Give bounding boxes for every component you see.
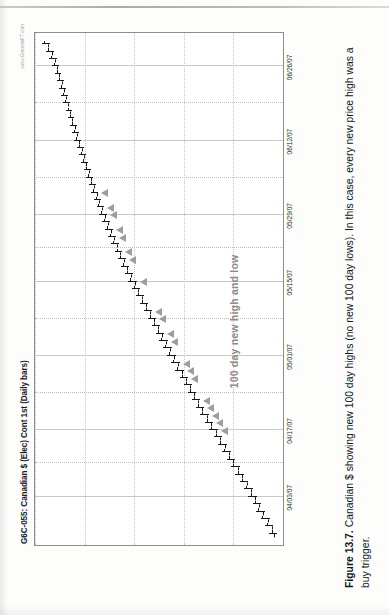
- page-edge-shadow-bottom: [0, 605, 389, 615]
- chart-title: G6C-055: Canadian $ (Elec) Cont 1st (Dai…: [20, 360, 29, 544]
- figure-caption-label: Figure 13.7.: [344, 530, 355, 588]
- x-axis-tick-label: 04/03/07: [286, 485, 293, 511]
- x-axis-tick-label: 05/01/07: [286, 344, 293, 370]
- x-axis-tick-label: 06/26/07: [286, 55, 293, 81]
- x-axis-tick-labels: 04/03/0704/17/0705/01/0705/15/0705/29/07…: [34, 34, 282, 546]
- x-axis-tick-label: 05/29/07: [286, 203, 293, 229]
- figure-rotation-wrapper: G6C-055: Canadian $ (Elec) Cont 1st (Dai…: [14, 18, 314, 578]
- figure-caption: Figure 13.7. Canadian $ showing new 100 …: [342, 32, 373, 588]
- page-edge-shadow-left: [0, 0, 8, 615]
- figure-caption-text: Canadian $ showing new 100 day highs (no…: [344, 47, 371, 588]
- grid-line-horizontal: [283, 33, 284, 545]
- x-axis-tick-label: 05/15/07: [286, 270, 293, 296]
- x-axis-tick-label: 04/17/07: [286, 418, 293, 444]
- ohlc-chart: G6C-055: Canadian $ (Elec) Cont 1st (Dai…: [14, 18, 314, 578]
- x-axis-tick-label: 06/12/07: [286, 129, 293, 155]
- caption-rotation-wrapper: Figure 13.7. Canadian $ showing new 100 …: [342, 28, 386, 588]
- chart-watermark: www.GenesisFT.com: [20, 24, 25, 69]
- page-top-rule: [0, 6, 389, 8]
